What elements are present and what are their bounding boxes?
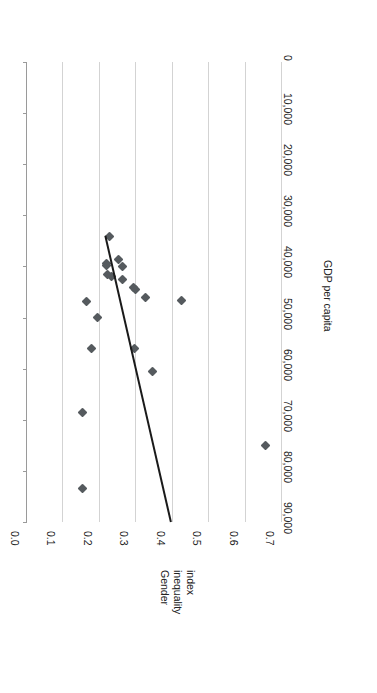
y-axis-title: Gender bbox=[159, 570, 171, 605]
y-tick-label: 0.0 bbox=[9, 531, 21, 546]
y-axis-title-l3: index bbox=[185, 570, 197, 595]
x-axis-title: GDP per capita bbox=[322, 260, 334, 332]
x-tick-label: 90,000 bbox=[282, 502, 294, 534]
y-tick-label: 0.3 bbox=[118, 531, 130, 546]
x-tick-label: 70,000 bbox=[282, 400, 294, 432]
x-tick-label: 30,000 bbox=[282, 195, 294, 227]
x-axis-title-text: GDP per capita bbox=[322, 260, 334, 332]
y-tick-label: 0.1 bbox=[45, 531, 57, 546]
x-tick-label: 50,000 bbox=[282, 297, 294, 329]
x-tick-label: 0 bbox=[282, 55, 294, 61]
x-tick-label: 60,000 bbox=[282, 349, 294, 381]
scatter-plot-area bbox=[27, 62, 282, 522]
x-tick-label: 80,000 bbox=[282, 451, 294, 483]
x-tick-label: 40,000 bbox=[282, 246, 294, 278]
y-tick-label: 0.4 bbox=[155, 531, 167, 546]
y-tick-label: 0.7 bbox=[264, 531, 276, 546]
chart-canvas: 0.70.60.50.40.30.20.10.0 010,00020,00030… bbox=[0, 0, 377, 693]
y-axis-title-line-2: inequality bbox=[172, 570, 184, 614]
y-tick-label: 0.2 bbox=[82, 531, 94, 546]
y-axis-title-l2: inequality bbox=[172, 570, 184, 614]
x-tick-label: 10,000 bbox=[282, 93, 294, 125]
y-tick-label: 0.6 bbox=[228, 531, 240, 546]
y-tick-label: 0.5 bbox=[191, 531, 203, 546]
y-axis-title-line-3: index bbox=[185, 570, 197, 595]
axis-tick bbox=[23, 522, 27, 523]
y-axis-title-line-1: Gender bbox=[159, 570, 171, 605]
trendline bbox=[27, 62, 282, 522]
x-tick-label: 20,000 bbox=[282, 144, 294, 176]
